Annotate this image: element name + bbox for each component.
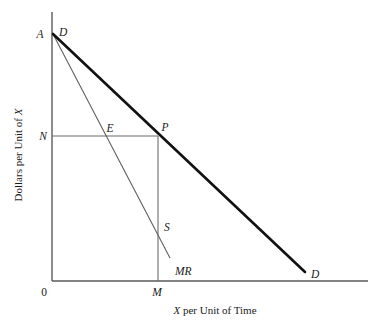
y-axis-label-text: Dollars per Unit of bbox=[12, 115, 24, 201]
demand-curve bbox=[53, 34, 305, 272]
y-axis-label-variable: X bbox=[12, 107, 24, 116]
label-S: S bbox=[164, 221, 170, 233]
diagram-canvas: A D N E P S M MR D 0 Dollars per Unit of… bbox=[0, 0, 386, 328]
marginal-revenue-curve bbox=[53, 34, 170, 258]
x-axis-label-text: per Unit of Time bbox=[180, 304, 257, 316]
label-origin: 0 bbox=[41, 286, 47, 298]
label-P: P bbox=[160, 121, 168, 133]
label-M: M bbox=[151, 286, 163, 298]
y-axis-label: Dollars per Unit of X bbox=[12, 107, 24, 201]
economics-diagram: A D N E P S M MR D 0 Dollars per Unit of… bbox=[0, 0, 386, 328]
x-axis-label: X per Unit of Time bbox=[172, 304, 256, 316]
label-E: E bbox=[105, 122, 113, 134]
label-MR: MR bbox=[174, 265, 192, 277]
label-D-end: D bbox=[310, 268, 320, 280]
label-D-top: D bbox=[58, 26, 68, 38]
label-N: N bbox=[38, 130, 48, 142]
label-A: A bbox=[35, 28, 44, 40]
